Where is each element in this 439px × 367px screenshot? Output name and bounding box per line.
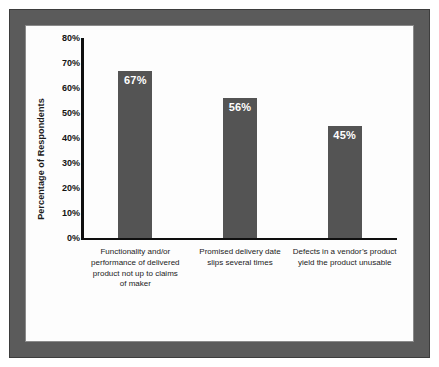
x-axis-category-label: Functionality and/orperformance of deliv… — [76, 247, 195, 290]
bar-slot: 56% — [188, 38, 293, 238]
x-axis-line — [81, 238, 397, 240]
chart-plate: Percentage of Respondents 0%10%20%30%40%… — [25, 25, 414, 342]
x-axis-category-label-line: Functionality and/or — [76, 247, 195, 258]
x-axis-category-label-line: slips several times — [181, 258, 300, 269]
x-axis-category-label-line: of maker — [76, 279, 195, 290]
y-axis-tick-labels: 0%10%20%30%40%50%60%70%80% — [50, 26, 82, 341]
bar-slot: 45% — [292, 38, 397, 238]
y-axis-tick-label: 20% — [62, 184, 80, 193]
bar-value-label: 45% — [328, 130, 362, 141]
y-axis-tick-label: 50% — [62, 109, 80, 118]
x-axis-category-label-line: Defects in a vendor’s product — [285, 247, 404, 258]
bar-chart: Percentage of Respondents 0%10%20%30%40%… — [26, 26, 413, 341]
x-axis-category-label: Promised delivery dateslips several time… — [181, 247, 300, 269]
y-axis-title-text: Percentage of Respondents — [36, 98, 46, 220]
y-axis-tick-label: 0% — [67, 234, 80, 243]
x-axis-category-label-line: performance of delivered — [76, 258, 195, 269]
y-axis-tick-label: 80% — [62, 34, 80, 43]
y-axis-tick-label: 10% — [62, 209, 80, 218]
plot-area: 67%56%45% — [83, 38, 397, 238]
bar[interactable]: 56% — [223, 98, 257, 238]
figure-outer-frame: Percentage of Respondents 0%10%20%30%40%… — [9, 9, 430, 358]
y-axis-title: Percentage of Respondents — [33, 64, 49, 254]
y-axis-tick-label: 60% — [62, 84, 80, 93]
x-axis-category-label-line: yield the product unusable — [285, 258, 404, 269]
bar[interactable]: 67% — [118, 71, 152, 239]
y-axis-tick-label: 70% — [62, 59, 80, 68]
x-axis-category-label: Defects in a vendor’s productyield the p… — [285, 247, 404, 269]
x-axis-category-label-line: Promised delivery date — [181, 247, 300, 258]
y-axis-tick-label: 30% — [62, 159, 80, 168]
bar-slot: 67% — [83, 38, 188, 238]
bar-value-label: 56% — [223, 102, 257, 113]
bar[interactable]: 45% — [328, 126, 362, 239]
bar-value-label: 67% — [118, 75, 152, 86]
x-axis-category-label-line: product not up to claims — [76, 269, 195, 280]
y-axis-tick-label: 40% — [62, 134, 80, 143]
